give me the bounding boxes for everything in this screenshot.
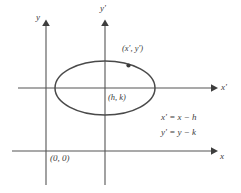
translation-of-axes-figure: y y' x' x (0, 0) (x', y') (h, k) x' = x … [0,0,241,193]
ellipse-center-label: (h, k) [108,93,126,102]
x-prime-axis-arrowhead [211,84,218,92]
x-axis-label: x [220,152,224,161]
x-axis-original [12,147,218,155]
x-axis-arrowhead [211,147,218,155]
point-marker [126,63,130,67]
point-label: (x', y') [122,44,143,53]
origin-label: (0, 0) [50,154,70,163]
x-prime-axis-label: x' [221,83,227,92]
y-prime-axis [101,20,109,186]
x-prime-axis [18,84,218,92]
equation-x-prime: x' = x − h [161,113,197,122]
equation-y-prime: y' = y − k [161,128,196,137]
y-prime-axis-label: y' [100,4,106,13]
y-prime-axis-arrowhead [101,20,109,27]
y-axis-label: y [36,13,40,22]
y-axis-arrowhead [42,20,50,27]
y-axis-original [42,20,50,186]
